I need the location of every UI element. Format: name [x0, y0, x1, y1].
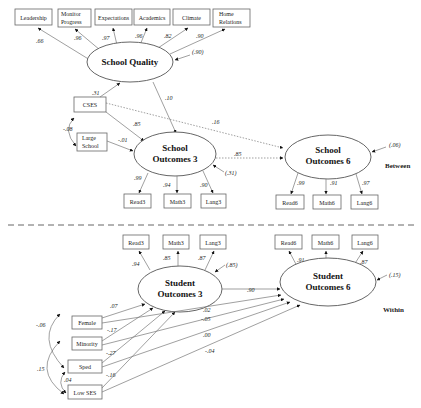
- quality-indicators: Leadership Monitor Progress Expectations…: [15, 9, 250, 27]
- level-between: Between: [385, 162, 410, 170]
- loading-lang3-w: .87: [198, 255, 207, 261]
- path-lowses-st3: -.16: [106, 372, 116, 378]
- path-minority-st3: -.17: [107, 327, 117, 333]
- indicator-academics: Academics: [139, 15, 166, 21]
- indicator-monitor-line1: Monitor: [61, 11, 81, 17]
- math6-between: Math6: [319, 200, 335, 206]
- st6-line2: Outcomes 6: [305, 282, 351, 292]
- lang6-within: Lang6: [357, 240, 372, 246]
- indicator-monitor-line2: Progress: [61, 19, 82, 25]
- read6-between: Read6: [282, 200, 297, 206]
- path-lowses-st6: -.04: [205, 348, 215, 354]
- loading-academics: .96: [135, 33, 143, 39]
- loading-lang6-b: .97: [362, 180, 371, 186]
- cses-label: CSES: [83, 102, 97, 108]
- read6-within: Read6: [281, 240, 296, 246]
- so6-line2: Outcomes 6: [305, 156, 351, 166]
- quality-residual: (.90): [192, 49, 204, 56]
- path-cses-so6: .16: [212, 119, 220, 125]
- path-cses-quality: .31: [92, 90, 100, 96]
- path-cses-so3: .85: [133, 121, 141, 127]
- loading-lang3-b: .90: [200, 182, 208, 188]
- loading-monitor: .96: [74, 35, 82, 41]
- indicator-expectations: Expectations: [98, 15, 130, 21]
- so6-residual: (.06): [389, 142, 401, 149]
- loading-math3-b: .94: [163, 182, 171, 188]
- indicator-home-line2: Relations: [219, 19, 242, 25]
- path-female-st3: .07: [110, 303, 119, 309]
- loading-math3-w: .85: [163, 255, 171, 261]
- loading-lang6-w: .87: [360, 259, 369, 265]
- cov-sped-lowses: .04: [64, 377, 72, 383]
- loading-read3-b: .99: [134, 175, 142, 181]
- lang6-between: Lang6: [357, 200, 372, 206]
- math3-between: Math3: [170, 199, 186, 205]
- path-sped-st6: .00: [203, 332, 211, 338]
- read3-within: Read3: [128, 240, 143, 246]
- indicator-leadership: Leadership: [20, 15, 47, 21]
- large-school-line2: School: [82, 143, 99, 149]
- path-so3-so6: .85: [234, 151, 242, 157]
- st3-line1: Student: [165, 278, 195, 288]
- st3-line2: Outcomes 3: [157, 289, 203, 299]
- so3-line1: School: [162, 143, 188, 153]
- loading-home: .90: [196, 33, 204, 39]
- loading-read3-w: .94: [132, 261, 140, 267]
- cov-female-sped: -.06: [36, 322, 46, 328]
- lang3-between: Lang3: [206, 199, 221, 205]
- loading-leadership: .66: [36, 38, 44, 44]
- so3-line2: Outcomes 3: [152, 154, 198, 164]
- loading-expectations: .97: [102, 35, 111, 41]
- level-within: Within: [383, 306, 404, 314]
- indicator-climate: Climate: [182, 15, 201, 21]
- so6-line1: School: [315, 145, 341, 155]
- minority-label: Minority: [76, 341, 97, 347]
- school-quality-label: School Quality: [102, 57, 159, 67]
- cov-minority-lowses: .15: [37, 366, 45, 372]
- cov-cses-large: -.08: [63, 126, 73, 132]
- large-school-line1: Large: [82, 135, 96, 141]
- loading-climate: .82: [164, 33, 172, 39]
- so3-residual: (.31): [225, 170, 237, 177]
- lang3-within: Lang3: [205, 240, 220, 246]
- female-label: Female: [78, 320, 96, 326]
- path-sped-st3: -.27: [106, 350, 116, 356]
- path-female-st6: .02: [203, 307, 211, 313]
- loading-math6-b: .91: [330, 180, 338, 186]
- st6-line1: Student: [313, 271, 343, 281]
- math3-within: Math3: [168, 240, 184, 246]
- sped-label: Sped: [79, 364, 91, 370]
- path-large-so3: -.01: [118, 137, 128, 143]
- indicator-home-line1: Home: [219, 11, 234, 17]
- st3-residual: (.85): [226, 262, 238, 269]
- loading-read6-b: .99: [297, 180, 305, 186]
- st6-residual: (.15): [389, 272, 401, 279]
- path-st3-st6: .90: [247, 287, 255, 293]
- path-diagram: Leadership Monitor Progress Expectations…: [0, 0, 421, 408]
- read3-between: Read3: [130, 199, 145, 205]
- path-quality-so3: .10: [165, 95, 173, 101]
- path-minority-st6: -.05: [201, 316, 211, 322]
- math6-within: Math6: [318, 240, 334, 246]
- low-ses-label: Low SES: [74, 390, 97, 396]
